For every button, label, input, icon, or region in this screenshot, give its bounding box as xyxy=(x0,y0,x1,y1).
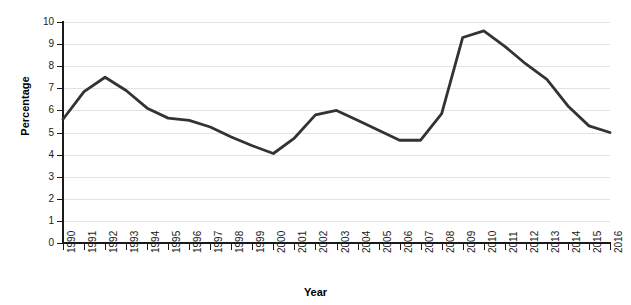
x-tick-label-1996: 1996 xyxy=(193,231,203,253)
x-tick-mark-1991 xyxy=(84,244,85,250)
x-tick-mark-2012 xyxy=(526,244,527,250)
x-tick-mark-2006 xyxy=(400,244,401,250)
x-tick-mark-1999 xyxy=(252,244,253,250)
x-tick-mark-2014 xyxy=(568,244,569,250)
x-tick-label-2009: 2009 xyxy=(467,231,477,253)
x-tick-label-2002: 2002 xyxy=(319,231,329,253)
x-tick-mark-1993 xyxy=(126,244,127,250)
x-tick-mark-2000 xyxy=(273,244,274,250)
y-tick-mark-0 xyxy=(57,243,62,244)
y-tick-mark-7 xyxy=(57,88,62,89)
y-axis-line xyxy=(62,21,64,244)
y-tick-label-10: 10 xyxy=(36,17,54,27)
y-tick-label-3: 3 xyxy=(36,172,54,182)
y-tick-mark-10 xyxy=(57,22,62,23)
y-tick-label-0: 0 xyxy=(36,238,54,248)
gridline-5 xyxy=(63,133,610,134)
gridline-6 xyxy=(63,110,610,111)
y-tick-mark-4 xyxy=(57,155,62,156)
y-tick-label-6: 6 xyxy=(36,105,54,115)
gridline-2 xyxy=(63,199,610,200)
gridline-1 xyxy=(63,221,610,222)
x-tick-label-1990: 1990 xyxy=(67,231,77,253)
x-tick-label-1998: 1998 xyxy=(235,231,245,253)
x-tick-mark-2005 xyxy=(379,244,380,250)
line-chart: 012345678910 199019911992199319941995199… xyxy=(0,0,631,305)
x-tick-label-1999: 1999 xyxy=(256,231,266,253)
x-axis-title: Year xyxy=(0,286,631,298)
y-tick-mark-5 xyxy=(57,133,62,134)
x-tick-mark-1994 xyxy=(147,244,148,250)
x-tick-label-2006: 2006 xyxy=(404,231,414,253)
x-tick-label-1995: 1995 xyxy=(172,231,182,253)
x-tick-mark-2013 xyxy=(547,244,548,250)
x-tick-mark-2009 xyxy=(463,244,464,250)
x-tick-label-2001: 2001 xyxy=(298,231,308,253)
x-tick-label-2003: 2003 xyxy=(341,231,351,253)
x-tick-mark-2008 xyxy=(442,244,443,250)
gridline-7 xyxy=(63,88,610,89)
x-tick-mark-1992 xyxy=(105,244,106,250)
x-tick-mark-2007 xyxy=(421,244,422,250)
y-tick-label-8: 8 xyxy=(36,61,54,71)
x-tick-label-2012: 2012 xyxy=(530,231,540,253)
gridline-8 xyxy=(63,66,610,67)
gridline-10 xyxy=(63,22,610,23)
x-tick-label-2013: 2013 xyxy=(551,231,561,253)
x-tick-mark-2003 xyxy=(337,244,338,250)
x-tick-mark-1996 xyxy=(189,244,190,250)
x-tick-mark-2010 xyxy=(484,244,485,250)
x-tick-mark-1990 xyxy=(63,244,64,250)
x-tick-mark-2001 xyxy=(294,244,295,250)
y-tick-label-2: 2 xyxy=(36,194,54,204)
gridline-9 xyxy=(63,44,610,45)
x-tick-label-1993: 1993 xyxy=(130,231,140,253)
gridline-3 xyxy=(63,177,610,178)
plot-area xyxy=(63,22,610,243)
x-tick-label-2015: 2015 xyxy=(593,231,603,253)
x-tick-label-2007: 2007 xyxy=(425,231,435,253)
x-tick-mark-2004 xyxy=(358,244,359,250)
y-tick-label-4: 4 xyxy=(36,150,54,160)
x-tick-label-2011: 2011 xyxy=(509,231,519,253)
x-tick-label-1991: 1991 xyxy=(88,231,98,253)
x-tick-label-2004: 2004 xyxy=(362,231,372,253)
y-tick-label-1: 1 xyxy=(36,216,54,226)
y-tick-label-5: 5 xyxy=(36,128,54,138)
y-tick-mark-1 xyxy=(57,221,62,222)
x-tick-label-1992: 1992 xyxy=(109,231,119,253)
x-tick-label-2014: 2014 xyxy=(572,231,582,253)
y-tick-mark-9 xyxy=(57,44,62,45)
x-tick-label-2008: 2008 xyxy=(446,231,456,253)
y-tick-mark-6 xyxy=(57,110,62,111)
x-tick-mark-1998 xyxy=(231,244,232,250)
x-tick-label-1997: 1997 xyxy=(214,231,224,253)
y-tick-mark-3 xyxy=(57,177,62,178)
x-tick-label-2000: 2000 xyxy=(277,231,287,253)
x-tick-label-2010: 2010 xyxy=(488,231,498,253)
y-axis-title: Percentage xyxy=(19,76,31,135)
x-tick-label-2005: 2005 xyxy=(383,231,393,253)
x-tick-mark-2011 xyxy=(505,244,506,250)
y-tick-mark-8 xyxy=(57,66,62,67)
x-tick-mark-1995 xyxy=(168,244,169,250)
x-tick-mark-2015 xyxy=(589,244,590,250)
y-tick-mark-2 xyxy=(57,199,62,200)
x-tick-label-2016: 2016 xyxy=(614,231,624,253)
x-tick-mark-2002 xyxy=(315,244,316,250)
gridline-4 xyxy=(63,155,610,156)
x-tick-label-1994: 1994 xyxy=(151,231,161,253)
y-tick-label-7: 7 xyxy=(36,83,54,93)
x-tick-mark-1997 xyxy=(210,244,211,250)
y-tick-label-9: 9 xyxy=(36,39,54,49)
x-tick-mark-2016 xyxy=(610,244,611,250)
